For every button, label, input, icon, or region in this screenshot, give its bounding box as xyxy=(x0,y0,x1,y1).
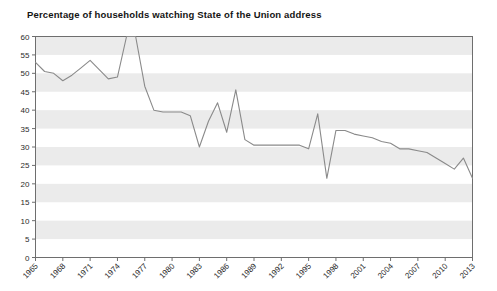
x-tick-label: 1977 xyxy=(130,261,149,280)
x-tick-label: 1983 xyxy=(185,261,204,280)
grid-band xyxy=(36,110,473,128)
chart-figure: Percentage of households watching State … xyxy=(0,0,497,291)
line-chart-svg: 051015202530354045505560 196519681971197… xyxy=(0,0,497,291)
x-tick-label: 1965 xyxy=(21,261,40,280)
y-tick-label: 15 xyxy=(21,198,30,207)
grid-band xyxy=(36,184,473,202)
x-tick-label: 1968 xyxy=(48,261,67,280)
x-axis-labels: 1965196819711974197719801983198619891992… xyxy=(21,261,477,280)
x-tick-label: 2001 xyxy=(349,261,368,280)
x-tick-label: 2013 xyxy=(458,261,477,280)
y-tick-label: 45 xyxy=(21,88,30,97)
grid-band xyxy=(36,147,473,165)
x-tick-label: 1998 xyxy=(321,261,340,280)
y-tick-label: 35 xyxy=(21,125,30,134)
grid-band xyxy=(36,37,473,55)
grid-band xyxy=(36,73,473,91)
y-axis-ticks xyxy=(32,37,36,258)
y-tick-label: 20 xyxy=(21,180,30,189)
grid-bands xyxy=(36,37,473,240)
y-axis-labels: 051015202530354045505560 xyxy=(21,33,30,263)
y-tick-label: 50 xyxy=(21,69,30,78)
x-tick-label: 1989 xyxy=(239,261,258,280)
x-tick-label: 2007 xyxy=(403,261,422,280)
y-tick-label: 5 xyxy=(25,235,30,244)
x-tick-label: 1971 xyxy=(76,261,95,280)
y-tick-label: 55 xyxy=(21,51,30,60)
plot-area: 051015202530354045505560 196519681971197… xyxy=(0,0,497,291)
x-tick-label: 1986 xyxy=(212,261,231,280)
y-tick-label: 60 xyxy=(21,33,30,42)
y-tick-label: 30 xyxy=(21,143,30,152)
y-tick-label: 25 xyxy=(21,161,30,170)
y-tick-label: 10 xyxy=(21,217,30,226)
x-tick-label: 1992 xyxy=(267,261,286,280)
y-tick-label: 40 xyxy=(21,106,30,115)
y-tick-label: 0 xyxy=(25,254,30,263)
x-tick-label: 1980 xyxy=(158,261,177,280)
x-tick-label: 2010 xyxy=(431,261,450,280)
x-tick-label: 1974 xyxy=(103,261,122,280)
grid-band xyxy=(36,221,473,239)
x-tick-label: 2004 xyxy=(376,261,395,280)
x-axis-ticks xyxy=(36,258,473,262)
x-tick-label: 1995 xyxy=(294,261,313,280)
